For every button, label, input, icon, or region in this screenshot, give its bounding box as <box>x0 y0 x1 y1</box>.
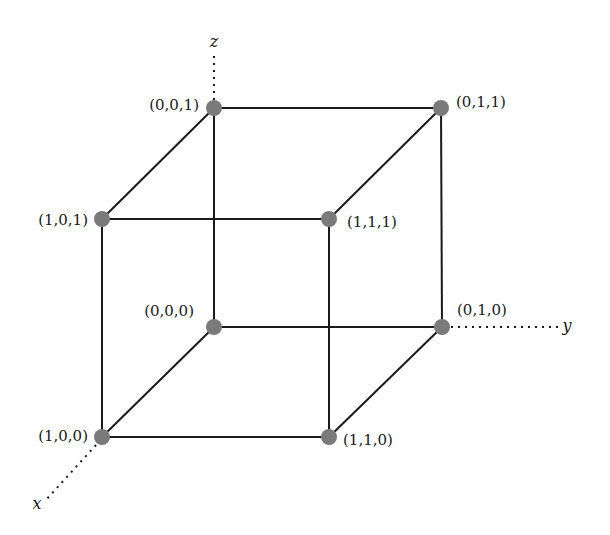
edge-011-111 <box>329 108 441 219</box>
vertex-110 <box>321 429 337 445</box>
label-000: (0,0,0) <box>144 302 194 320</box>
vertex-100 <box>94 429 110 445</box>
edge-000-100 <box>102 327 214 437</box>
vertex-011 <box>433 100 449 116</box>
edge-010-110 <box>329 327 442 437</box>
vertex-001 <box>206 100 222 116</box>
label-001: (0,0,1) <box>149 96 199 114</box>
label-110: (1,1,0) <box>343 431 393 449</box>
cube-diagram: (0,0,1) (0,1,1) (1,0,1) (1,1,1) (0,0,0) … <box>0 0 610 535</box>
label-011: (0,1,1) <box>456 93 506 111</box>
label-111: (1,1,1) <box>347 213 397 231</box>
edge-011-010 <box>441 108 442 327</box>
label-010: (0,1,0) <box>457 301 507 319</box>
z-axis-label: z <box>209 32 219 51</box>
vertex-010 <box>434 319 450 335</box>
x-axis <box>45 445 96 501</box>
vertex-111 <box>321 211 337 227</box>
y-axis-label: y <box>561 316 572 335</box>
vertex-101 <box>94 211 110 227</box>
x-axis-label: x <box>32 494 41 513</box>
vertex-000 <box>206 319 222 335</box>
edge-001-101 <box>102 108 214 219</box>
label-101: (1,0,1) <box>38 211 88 229</box>
label-100: (1,0,0) <box>38 427 88 445</box>
